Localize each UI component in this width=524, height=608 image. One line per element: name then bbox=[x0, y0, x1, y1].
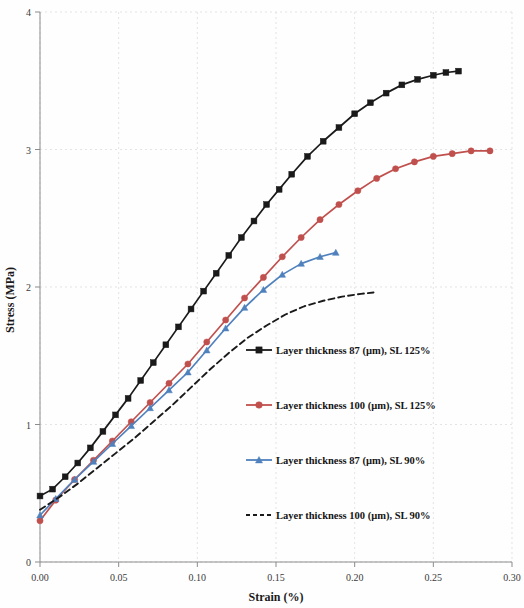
data-point-marker bbox=[188, 306, 194, 312]
data-point-marker bbox=[279, 254, 285, 260]
data-point-marker bbox=[185, 361, 191, 367]
data-point-marker bbox=[392, 166, 398, 172]
data-point-marker bbox=[201, 288, 207, 294]
data-point-marker bbox=[100, 428, 106, 434]
data-point-marker bbox=[113, 412, 119, 418]
chart-legend: Layer thickness 87 (µm), SL 125%Layer th… bbox=[246, 345, 436, 522]
data-point-marker bbox=[336, 125, 342, 131]
data-point-marker bbox=[368, 100, 374, 106]
x-tick-label: 0.30 bbox=[503, 572, 521, 583]
data-point-marker bbox=[355, 188, 361, 194]
data-point-marker bbox=[37, 518, 43, 524]
data-point-marker bbox=[125, 395, 131, 401]
data-point-marker bbox=[317, 217, 323, 223]
data-point-marker bbox=[468, 148, 474, 154]
data-point-marker bbox=[50, 486, 56, 492]
data-point-marker bbox=[241, 295, 247, 301]
data-point-marker bbox=[87, 445, 93, 451]
data-point-marker bbox=[37, 493, 43, 499]
data-point-marker bbox=[383, 90, 389, 96]
x-axis-title: Strain (%) bbox=[249, 590, 304, 604]
data-point-marker bbox=[138, 378, 144, 384]
data-point-marker bbox=[320, 138, 326, 144]
data-point-marker bbox=[75, 460, 81, 466]
data-point-marker bbox=[251, 218, 257, 224]
x-tick-label: 0.20 bbox=[346, 572, 364, 583]
data-point-marker bbox=[411, 159, 417, 165]
data-point-marker bbox=[456, 68, 462, 74]
data-point-marker bbox=[279, 271, 286, 277]
legend-entry-2: Layer thickness 100 (µm), SL 125% bbox=[246, 400, 436, 412]
data-point-marker bbox=[305, 153, 311, 159]
y-tick-label: 1 bbox=[26, 420, 31, 431]
x-tick-label: 0.05 bbox=[110, 572, 128, 583]
data-point-marker bbox=[298, 234, 304, 240]
legend-label: Layer thickness 87 (µm), SL 90% bbox=[276, 455, 425, 467]
data-point-marker bbox=[332, 249, 339, 255]
x-tick-label: 0.15 bbox=[267, 572, 285, 583]
legend-label: Layer thickness 87 (µm), SL 125% bbox=[276, 345, 431, 357]
data-point-marker bbox=[264, 202, 270, 208]
data-point-marker bbox=[238, 235, 244, 241]
data-point-marker bbox=[260, 274, 266, 280]
data-point-marker bbox=[226, 252, 232, 258]
x-tick-label: 0.25 bbox=[425, 572, 443, 583]
data-point-marker bbox=[449, 151, 455, 157]
y-tick-label: 3 bbox=[26, 145, 31, 156]
data-point-marker bbox=[276, 186, 282, 192]
data-point-marker bbox=[443, 70, 449, 76]
data-point-marker bbox=[487, 148, 493, 154]
data-point-marker bbox=[176, 324, 182, 330]
legend-entry-4: Layer thickness 100 (µm), SL 90% bbox=[246, 510, 431, 522]
data-point-marker bbox=[336, 201, 342, 207]
data-point-marker bbox=[223, 317, 229, 323]
x-tick-label: 0.00 bbox=[31, 572, 49, 583]
y-axis-title: Stress (MPa) bbox=[3, 267, 17, 333]
data-point-marker bbox=[430, 153, 436, 159]
data-point-marker bbox=[289, 171, 295, 177]
data-point-marker bbox=[399, 82, 405, 88]
stress-strain-chart-figure: 0.000.050.100.150.200.250.30 01234 Layer… bbox=[0, 0, 524, 608]
data-point-marker bbox=[374, 175, 380, 181]
data-point-marker bbox=[430, 72, 436, 78]
x-tick-label: 0.10 bbox=[189, 572, 207, 583]
series-line bbox=[40, 253, 336, 516]
y-tick-label: 4 bbox=[26, 7, 31, 18]
y-tick-label: 2 bbox=[26, 282, 31, 293]
data-point-marker bbox=[256, 347, 262, 353]
data-point-marker bbox=[213, 270, 219, 276]
legend-entry-1: Layer thickness 87 (µm), SL 125% bbox=[246, 345, 431, 357]
chart-canvas: 0.000.050.100.150.200.250.30 01234 Layer… bbox=[0, 0, 524, 608]
data-point-marker bbox=[62, 474, 68, 480]
data-point-marker bbox=[163, 342, 169, 348]
data-point-marker bbox=[150, 360, 156, 366]
x-axis-ticks: 0.000.050.100.150.200.250.30 bbox=[31, 562, 521, 583]
data-point-marker bbox=[256, 402, 263, 409]
y-tick-label: 0 bbox=[26, 557, 31, 568]
series-1 bbox=[37, 68, 461, 499]
series-3 bbox=[37, 249, 339, 518]
data-point-marker bbox=[352, 111, 358, 117]
data-point-marker bbox=[166, 380, 172, 386]
data-point-marker bbox=[415, 76, 421, 82]
legend-entry-3: Layer thickness 87 (µm), SL 90% bbox=[246, 455, 425, 467]
grid-lines bbox=[40, 12, 512, 562]
y-axis-ticks: 01234 bbox=[26, 7, 40, 568]
legend-label: Layer thickness 100 (µm), SL 125% bbox=[276, 400, 436, 412]
data-point-marker bbox=[204, 339, 210, 345]
legend-label: Layer thickness 100 (µm), SL 90% bbox=[276, 510, 431, 522]
